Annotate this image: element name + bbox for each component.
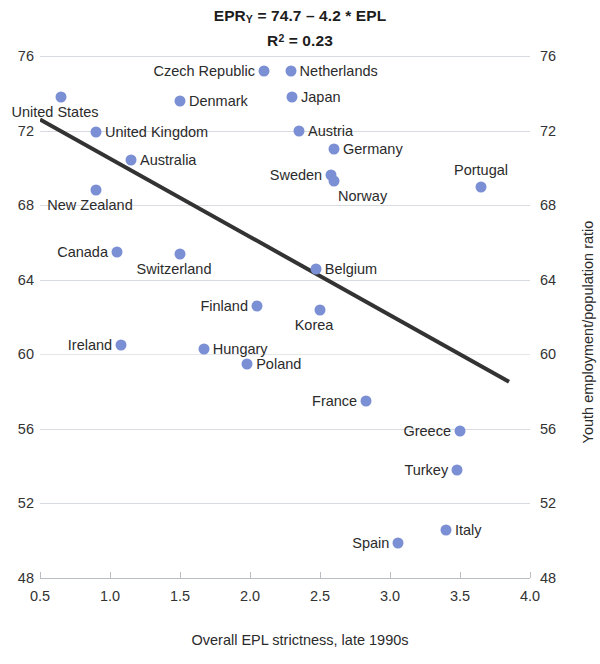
y-tick-label-right-72: 72 [540, 124, 556, 138]
point-label-spain: Spain [352, 535, 389, 550]
y-tick-label-left-72: 72 [18, 124, 34, 138]
x-tick-mark [40, 572, 41, 578]
y-tick-label-right-56: 56 [540, 422, 556, 436]
x-tick-mark [250, 572, 251, 578]
x-tick-label-4.0: 4.0 [520, 588, 540, 604]
chart-title-line2: R2 = 0.23 [0, 29, 600, 50]
y-tick-label-right-60: 60 [540, 347, 556, 361]
data-point-ireland[interactable] [116, 339, 127, 350]
title-epr-subscript: Y [246, 13, 253, 25]
data-point-new-zealand[interactable] [91, 185, 102, 196]
point-label-netherlands: Netherlands [300, 63, 378, 78]
point-label-portugal: Portugal [454, 163, 508, 178]
y-tick-label-right-68: 68 [540, 198, 556, 212]
point-label-united-states: United States [11, 105, 98, 120]
title-rsquared-rest: = 0.23 [284, 33, 333, 50]
data-point-france[interactable] [361, 395, 372, 406]
y-tick-label-left-56: 56 [18, 422, 34, 436]
point-label-ireland: Ireland [68, 337, 112, 352]
y-tick-label-right-64: 64 [540, 273, 556, 287]
point-label-united-kingdom: United Kingdom [105, 125, 208, 140]
x-axis-title: Overall EPL strictness, late 1990s [0, 632, 600, 648]
data-point-poland[interactable] [242, 358, 253, 369]
chart-title-line1: EPRY = 74.7 – 4.2 * EPL [214, 7, 387, 24]
point-label-germany: Germany [343, 142, 403, 157]
x-tick-mark [530, 572, 531, 578]
y-tick-label-right-52: 52 [540, 496, 556, 510]
y-axis-title-text: Youth employment/population ratio [580, 221, 596, 444]
point-label-austria: Austria [308, 123, 353, 138]
y-tick-label-left-52: 52 [18, 496, 34, 510]
y-tick-label-left-48: 48 [18, 571, 34, 585]
data-point-australia[interactable] [126, 155, 137, 166]
x-axis-line [40, 578, 530, 579]
y-tick-label-left-76: 76 [18, 49, 34, 63]
data-point-greece[interactable] [455, 425, 466, 436]
data-point-spain[interactable] [393, 537, 404, 548]
x-tick-mark [390, 572, 391, 578]
y-tick-label-right-76: 76 [540, 49, 556, 63]
data-point-italy[interactable] [441, 524, 452, 535]
data-point-netherlands[interactable] [285, 65, 296, 76]
point-label-denmark: Denmark [189, 93, 248, 108]
data-point-germany[interactable] [329, 144, 340, 155]
x-tick-label-1.5: 1.5 [170, 588, 190, 604]
x-tick-mark [320, 572, 321, 578]
x-tick-label-0.5: 0.5 [30, 588, 50, 604]
plot-area: United StatesCzech RepublicNetherlandsJa… [40, 56, 530, 578]
data-point-united-kingdom[interactable] [91, 127, 102, 138]
x-tick-label-3.5: 3.5 [450, 588, 470, 604]
point-label-france: France [312, 393, 357, 408]
data-point-denmark[interactable] [175, 95, 186, 106]
data-point-japan[interactable] [287, 92, 298, 103]
data-point-canada[interactable] [112, 246, 123, 257]
data-point-czech-republic[interactable] [259, 65, 270, 76]
data-point-korea[interactable] [315, 304, 326, 315]
y-tick-label-left-68: 68 [18, 198, 34, 212]
data-point-finland[interactable] [252, 300, 263, 311]
data-point-switzerland[interactable] [175, 248, 186, 259]
y-tick-label-left-60: 60 [18, 347, 34, 361]
data-point-portugal[interactable] [476, 181, 487, 192]
data-point-united-states[interactable] [56, 92, 67, 103]
point-label-poland: Poland [256, 356, 301, 371]
point-label-switzerland: Switzerland [137, 262, 212, 277]
title-epr-prefix: EPR [214, 7, 246, 24]
x-tick-mark [460, 572, 461, 578]
y-axis-title: Youth employment/population ratio [578, 0, 598, 664]
data-point-hungary[interactable] [198, 343, 209, 354]
point-label-japan: Japan [301, 90, 341, 105]
point-label-sweden: Sweden [270, 168, 322, 183]
point-label-turkey: Turkey [404, 462, 448, 477]
x-tick-label-2.0: 2.0 [240, 588, 260, 604]
point-label-new-zealand: New Zealand [47, 198, 132, 213]
data-point-austria[interactable] [294, 125, 305, 136]
point-label-canada: Canada [57, 244, 108, 259]
title-equation-rest: = 74.7 – 4.2 * EPL [253, 7, 386, 24]
scatter-chart: EPRY = 74.7 – 4.2 * EPL R2 = 0.23 United… [0, 0, 600, 664]
point-label-norway: Norway [338, 189, 387, 204]
point-label-belgium: Belgium [325, 261, 377, 276]
x-tick-label-3.0: 3.0 [380, 588, 400, 604]
data-point-norway[interactable] [329, 175, 340, 186]
point-label-italy: Italy [455, 522, 482, 537]
chart-title: EPRY = 74.7 – 4.2 * EPL R2 = 0.23 [0, 6, 600, 51]
point-label-greece: Greece [403, 423, 451, 438]
y-tick-label-left-64: 64 [18, 273, 34, 287]
x-tick-label-2.5: 2.5 [310, 588, 330, 604]
y-tick-label-right-48: 48 [540, 571, 556, 585]
title-r-prefix: R [267, 33, 278, 50]
data-point-belgium[interactable] [310, 263, 321, 274]
x-tick-mark [180, 572, 181, 578]
point-label-czech-republic: Czech Republic [153, 63, 255, 78]
x-tick-label-1.0: 1.0 [100, 588, 120, 604]
point-label-finland: Finland [200, 298, 248, 313]
x-tick-mark [110, 572, 111, 578]
point-label-hungary: Hungary [213, 341, 268, 356]
point-label-korea: Korea [295, 318, 334, 333]
point-label-australia: Australia [140, 153, 196, 168]
data-point-turkey[interactable] [452, 464, 463, 475]
